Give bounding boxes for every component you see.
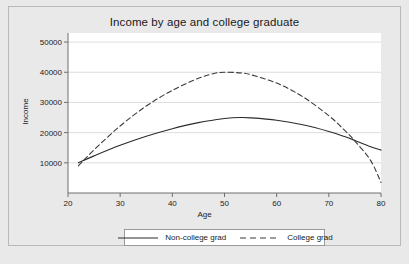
y-tick-label: 40000	[14, 68, 62, 77]
legend-item-college-grad: College grad	[232, 233, 338, 243]
y-axis-title: Income	[21, 98, 30, 124]
x-tick-label: 80	[377, 199, 386, 208]
x-tick-label: 40	[168, 199, 177, 208]
y-tick-label: 10000	[14, 158, 62, 167]
x-tick-label: 20	[64, 199, 73, 208]
x-tick-label: 60	[272, 199, 281, 208]
x-tick-label: 70	[324, 199, 333, 208]
legend-line-solid-icon	[116, 233, 160, 243]
y-axis-ticks	[64, 42, 68, 163]
legend-line-dashed-icon	[238, 233, 282, 243]
legend-label-college-grad: College grad	[287, 233, 332, 242]
chart-legend: Non-college grad College grad	[124, 229, 325, 246]
plot-area-background	[68, 33, 381, 193]
x-tick-label: 30	[116, 199, 125, 208]
x-axis-ticks	[68, 193, 381, 197]
legend-label-non-college-grad: Non-college grad	[165, 233, 226, 242]
y-tick-label: 20000	[14, 128, 62, 137]
x-tick-label: 50	[220, 199, 229, 208]
x-axis-title: Age	[0, 210, 409, 219]
legend-item-non-college-grad: Non-college grad	[110, 233, 232, 243]
chart-figure: Income by age and college graduate 10000…	[0, 0, 409, 264]
y-tick-label: 50000	[14, 38, 62, 47]
